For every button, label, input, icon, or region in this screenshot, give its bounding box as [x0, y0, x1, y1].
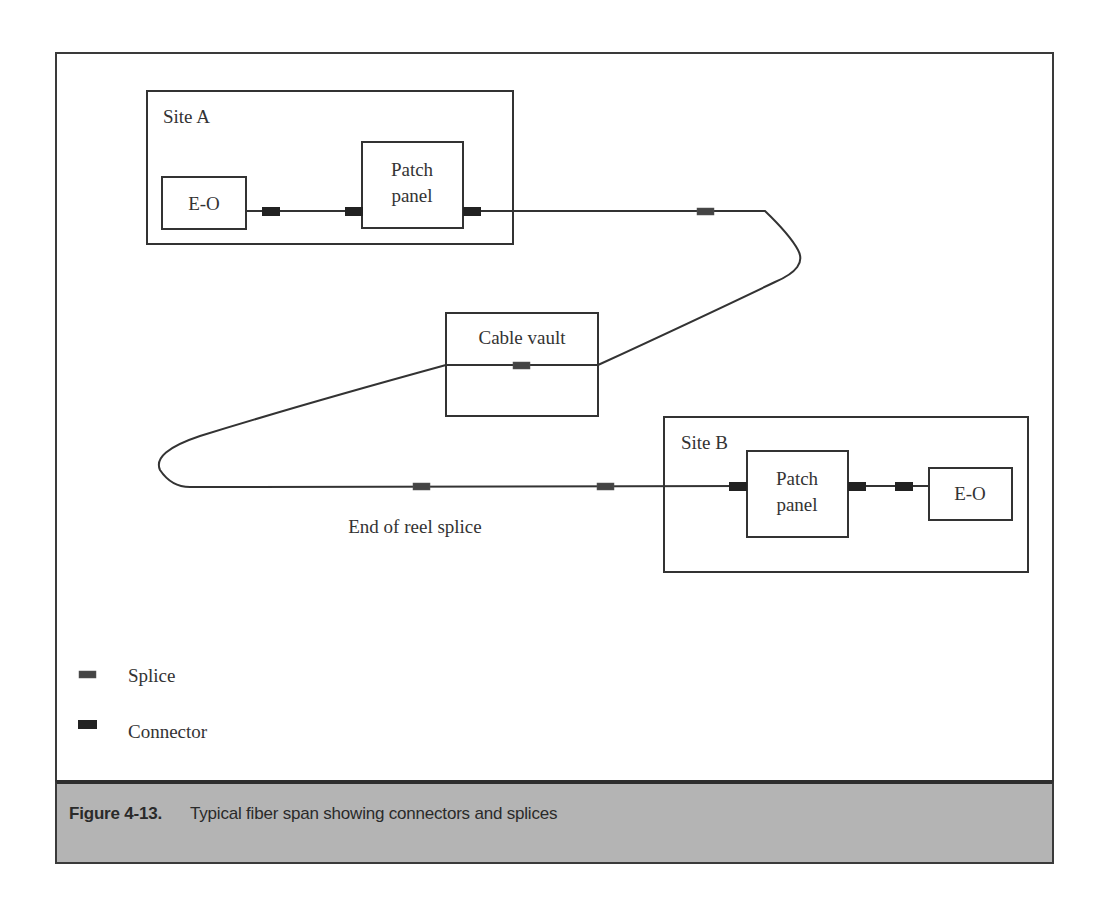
site-b-label: Site B — [681, 432, 728, 453]
caption-bar: Figure 4-13.Typical fiber span showing c… — [55, 780, 1054, 864]
connector-icon — [848, 482, 866, 491]
connector-icon — [463, 207, 481, 216]
fiber-path — [159, 211, 929, 487]
legend-connector-label: Connector — [128, 721, 208, 742]
connector-icon — [345, 207, 363, 216]
site-a-patch-panel-line1: Patch — [391, 159, 434, 180]
legend-splice-label: Splice — [128, 665, 176, 686]
figure-caption-text: Typical fiber span showing connectors an… — [190, 804, 557, 823]
site-b-eo-label: E-O — [954, 483, 986, 504]
splice-icon — [413, 483, 430, 490]
legend: Splice Connector — [78, 665, 208, 742]
site-a-patch-panel-line2: panel — [391, 185, 432, 206]
site-b-patch-panel-line1: Patch — [776, 468, 819, 489]
fiber-vault-to-site-b — [159, 365, 747, 487]
site-a-eo-label: E-O — [188, 193, 220, 214]
site-b: Site B Patch panel E-O — [664, 417, 1028, 572]
site-a: Site A E-O Patch panel — [147, 91, 513, 244]
fiber-span-diagram: Site A E-O Patch panel Cable vault Site … — [0, 0, 1105, 900]
connector-icon — [895, 482, 913, 491]
site-b-patch-panel-line2: panel — [776, 494, 817, 515]
site-a-label: Site A — [163, 106, 210, 127]
connector-icon — [729, 482, 747, 491]
figure-caption: Figure 4-13.Typical fiber span showing c… — [69, 804, 557, 824]
legend-splice-icon — [79, 671, 96, 678]
splice-icon — [697, 208, 714, 215]
fiber-components — [262, 207, 913, 491]
splice-icon — [597, 483, 614, 490]
cable-vault-label: Cable vault — [478, 327, 566, 348]
figure-number: Figure 4-13. — [69, 804, 162, 823]
splice-icon — [513, 362, 530, 369]
connector-icon — [262, 207, 280, 216]
legend-connector-icon — [78, 720, 97, 729]
end-of-reel-label: End of reel splice — [348, 516, 481, 537]
